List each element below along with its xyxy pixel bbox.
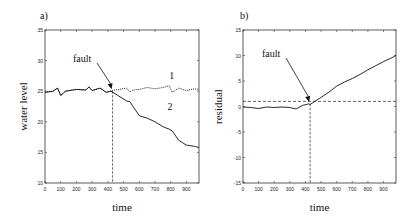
- arrowhead-icon: [305, 96, 310, 102]
- fault-annotation: fault: [73, 53, 92, 64]
- x-tick-label: 200: [72, 186, 81, 192]
- y-tick-label: 5: [238, 78, 241, 84]
- x-tick-label: 600: [135, 186, 144, 192]
- panel-label: a): [40, 10, 48, 22]
- y-tick-label: 25: [37, 88, 43, 94]
- y-tick-label: 0: [238, 104, 241, 110]
- series-label: 1: [169, 70, 174, 81]
- y-tick-label: -10: [234, 155, 241, 161]
- y-tick-label: 15: [37, 149, 43, 155]
- x-tick-label: 800: [364, 186, 373, 192]
- y-tick-label: 20: [37, 119, 43, 125]
- series-residual: [243, 56, 396, 110]
- y-axis-label: residual: [212, 89, 224, 124]
- chart-water-level: 0100200300400500600700800900101520253035…: [17, 10, 199, 213]
- panel-label: b): [240, 10, 248, 22]
- arrowhead-icon: [108, 83, 113, 89]
- y-tick-label: 15: [235, 27, 241, 33]
- x-tick-label: 300: [286, 186, 295, 192]
- x-tick-label: 0: [44, 186, 47, 192]
- chart-residual: 0100200300400500600700800900-15-10-50510…: [212, 10, 396, 213]
- x-tick-label: 700: [151, 186, 160, 192]
- x-tick-label: 100: [254, 186, 263, 192]
- x-tick-label: 800: [167, 186, 176, 192]
- y-tick-label: -5: [237, 129, 242, 135]
- x-tick-label: 400: [104, 186, 113, 192]
- fault-arrow: [97, 63, 112, 85]
- x-axis-label: time: [310, 201, 330, 213]
- x-axis-label: time: [112, 201, 132, 213]
- y-tick-label: 35: [37, 27, 43, 33]
- x-tick-label: 300: [88, 186, 97, 192]
- x-tick-label: 700: [348, 186, 357, 192]
- figure: 0100200300400500600700800900101520253035…: [0, 0, 414, 219]
- y-tick-label: -15: [234, 180, 241, 186]
- y-axis-label: water level: [17, 82, 29, 131]
- y-tick-label: 30: [37, 58, 43, 64]
- series-2: [45, 87, 199, 148]
- x-tick-label: 200: [270, 186, 279, 192]
- x-tick-label: 500: [119, 186, 128, 192]
- x-tick-label: 400: [301, 186, 310, 192]
- y-tick-label: 10: [235, 53, 241, 59]
- series-label: 2: [168, 101, 173, 112]
- x-tick-label: 600: [333, 186, 342, 192]
- x-tick-label: 100: [57, 186, 66, 192]
- y-tick-label: 10: [37, 180, 43, 186]
- fault-annotation: fault: [262, 48, 281, 59]
- fault-arrow: [286, 58, 309, 98]
- x-tick-label: 500: [317, 186, 326, 192]
- x-tick-label: 900: [182, 186, 191, 192]
- plot-frame: [45, 30, 199, 183]
- x-tick-label: 0: [242, 186, 245, 192]
- x-tick-label: 900: [379, 186, 388, 192]
